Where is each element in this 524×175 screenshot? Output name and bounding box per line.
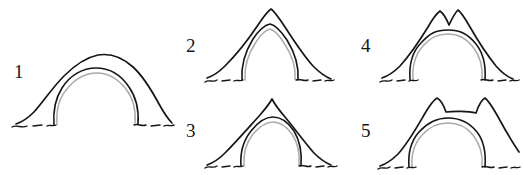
figure-3-outer-profile (207, 99, 331, 165)
figure-sheet-canvas: 1 2 (0, 0, 524, 175)
figure-1: 1 (12, 55, 174, 128)
figure-5-label: 5 (361, 120, 371, 141)
figure-3-inner-arch (241, 117, 301, 166)
figure-5-inner-arch (409, 118, 485, 167)
figure-1-label: 1 (14, 61, 24, 82)
figure-4-label: 4 (361, 35, 371, 56)
figure-2-arch-shadow (245, 29, 295, 80)
figure-1-inner-arch (54, 68, 138, 125)
figure-3-label: 3 (186, 120, 196, 141)
figure-5-outer-profile (380, 98, 519, 166)
figure-sheet: 1 2 (0, 0, 524, 175)
figure-5: 5 (361, 98, 520, 169)
figure-2: 2 (186, 9, 334, 82)
figure-4-outer-profile (382, 10, 513, 79)
figure-1-outer-profile (16, 55, 172, 125)
figure-3-ground-line (205, 165, 337, 168)
figure-3: 3 (186, 99, 337, 168)
figure-4: 4 (361, 10, 519, 82)
figure-4-ground-line (380, 79, 519, 82)
figure-2-ground-line (205, 79, 334, 82)
figure-5-ground-line (378, 166, 520, 169)
figure-2-outer-profile (207, 9, 331, 79)
figure-1-ground-line (12, 124, 174, 127)
figure-2-label: 2 (186, 35, 196, 56)
